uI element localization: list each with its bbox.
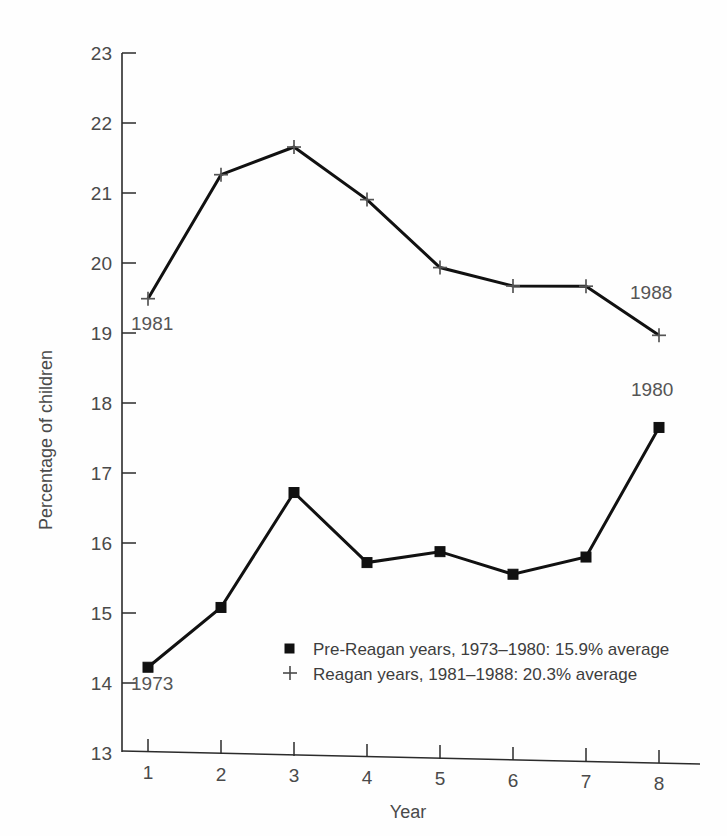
legend-label-reagan: Reagan years, 1981–1988: 20.3% average bbox=[313, 665, 637, 684]
x-tick-label-3: 3 bbox=[289, 765, 300, 786]
y-tick-label-18: 18 bbox=[91, 393, 112, 414]
data-point-square-3 bbox=[289, 488, 299, 498]
pre-reagan-series-markers bbox=[143, 422, 664, 672]
y-tick-label-17: 17 bbox=[91, 463, 112, 484]
x-tick-label-1: 1 bbox=[143, 762, 154, 783]
y-tick-label-20: 20 bbox=[91, 253, 112, 274]
legend-square-marker-icon bbox=[285, 644, 294, 653]
x-tick-label-7: 7 bbox=[581, 771, 592, 792]
x-tick-label-8: 8 bbox=[654, 773, 665, 794]
x-tick-label-4: 4 bbox=[362, 767, 373, 788]
line-chart-plot: 23 22 21 20 19 18 17 16 15 14 13 Percent… bbox=[0, 0, 727, 836]
data-point-square-6 bbox=[508, 569, 518, 579]
annotation-1988: 1988 bbox=[630, 282, 672, 303]
data-point-plus-6 bbox=[506, 279, 520, 293]
x-axis-title: Year bbox=[390, 802, 426, 822]
x-tick-label-5: 5 bbox=[435, 768, 446, 789]
annotation-1973: 1973 bbox=[131, 673, 173, 694]
data-point-plus-1 bbox=[141, 292, 155, 306]
x-tick-label-6: 6 bbox=[508, 770, 519, 791]
y-axis-title: Percentage of children bbox=[36, 350, 56, 530]
data-point-square-1 bbox=[143, 662, 153, 672]
y-tick-label-19: 19 bbox=[91, 323, 112, 344]
data-point-square-5 bbox=[435, 547, 445, 557]
y-tick-label-16: 16 bbox=[91, 533, 112, 554]
x-axis-line bbox=[122, 751, 700, 764]
y-tick-label-23: 23 bbox=[91, 43, 112, 64]
y-tick-label-13: 13 bbox=[91, 743, 112, 764]
series-pre-reagan-square bbox=[143, 422, 664, 672]
annotation-group: 1981 1988 1973 1980 bbox=[131, 282, 673, 694]
pre-reagan-series-line bbox=[148, 427, 659, 667]
series-reagan-plus bbox=[141, 140, 666, 342]
y-tick-label-22: 22 bbox=[91, 113, 112, 134]
chart-legend: Pre-Reagan years, 1973–1980: 15.9% avera… bbox=[283, 640, 669, 684]
chart-figure: 23 22 21 20 19 18 17 16 15 14 13 Percent… bbox=[0, 0, 727, 836]
annotation-1980: 1980 bbox=[631, 379, 673, 400]
data-point-plus-2 bbox=[214, 168, 228, 182]
data-point-square-7 bbox=[581, 552, 591, 562]
y-tick-label-21: 21 bbox=[91, 183, 112, 204]
annotation-1981: 1981 bbox=[131, 313, 173, 334]
legend-label-pre-reagan: Pre-Reagan years, 1973–1980: 15.9% avera… bbox=[313, 640, 669, 659]
reagan-series-markers bbox=[141, 140, 666, 342]
x-tick-label-2: 2 bbox=[216, 764, 227, 785]
data-point-square-2 bbox=[216, 602, 226, 612]
y-tick-label-14: 14 bbox=[91, 673, 113, 694]
y-tick-label-15: 15 bbox=[91, 603, 112, 624]
data-point-square-4 bbox=[362, 558, 372, 568]
x-axis-group: 1 2 3 4 5 6 7 8 Year bbox=[122, 739, 700, 822]
y-axis-group: 23 22 21 20 19 18 17 16 15 14 13 Percent… bbox=[36, 43, 136, 764]
legend-plus-marker-icon bbox=[283, 666, 297, 680]
data-point-square-8 bbox=[654, 422, 664, 432]
